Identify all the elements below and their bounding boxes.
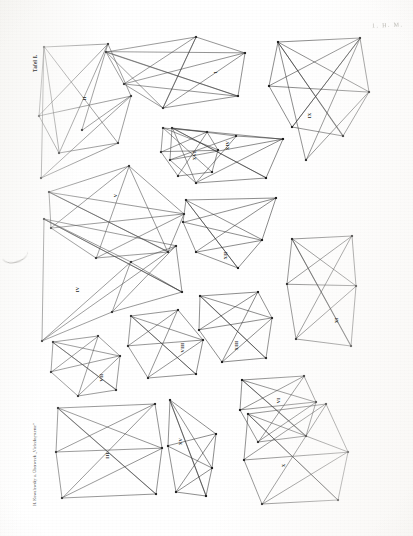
vertex-dot [81, 129, 83, 131]
vertex-dot [305, 159, 307, 161]
figure-chord [51, 166, 129, 228]
vertex-dot [211, 171, 213, 173]
vertex-dot [195, 36, 197, 38]
figure-chord [44, 219, 182, 292]
vertex-dot [43, 218, 45, 220]
vertex-dot [128, 165, 130, 167]
vertex-dot [315, 401, 317, 403]
vertex-dot [40, 177, 42, 179]
figure-chord [170, 400, 206, 496]
figure-chord [186, 200, 262, 240]
figure-chord [240, 402, 316, 410]
figure-chord [196, 240, 262, 252]
figure-chord [296, 236, 352, 339]
vertex-dot [107, 43, 109, 45]
vertex-dot [247, 413, 249, 415]
figure-chord [112, 262, 131, 312]
figure-chord [59, 44, 107, 153]
vertex-dot [355, 285, 357, 287]
vertex-dot [241, 379, 243, 381]
vertex-dot [205, 495, 207, 497]
figure-chord [292, 239, 351, 346]
figure-chord [41, 96, 131, 178]
figure-i [105, 36, 246, 109]
figure-chord [287, 236, 352, 284]
figure-xiv [169, 127, 284, 184]
figure-chord [42, 246, 176, 341]
vertex-dot [115, 389, 117, 391]
figure-chord [53, 342, 120, 356]
figure-chord [183, 222, 262, 240]
vertex-dot [282, 138, 284, 140]
figure-outline [199, 292, 272, 362]
figure-chord [172, 128, 283, 139]
vertex-dot [286, 283, 288, 285]
vertex-dot [351, 235, 353, 237]
figure-chord [82, 96, 131, 130]
figure-xii [182, 197, 277, 269]
vertex-dot [303, 375, 305, 377]
plate-page: Tafel I. H. Kowalewsky u. Überweck „Viel… [0, 0, 413, 536]
vertex-dot [162, 127, 164, 129]
vertex-dot [257, 441, 259, 443]
figure-outline [244, 404, 348, 504]
figure-chord [240, 376, 304, 410]
figure-chord [44, 47, 59, 153]
vertex-dot [130, 261, 132, 263]
vertex-dot [198, 329, 200, 331]
vertex-dot [43, 46, 45, 48]
figure-xv [167, 399, 217, 497]
figure-chord [269, 86, 369, 92]
figure-iv [41, 218, 183, 342]
vertex-dot [199, 295, 201, 297]
vertex-dot [342, 135, 344, 137]
vertex-dot [57, 407, 59, 409]
figure-outline [240, 376, 316, 442]
vertex-dot [337, 499, 339, 501]
vertex-dot [48, 191, 50, 193]
figure-iii [55, 403, 163, 499]
geometric-figures-plate [0, 0, 413, 536]
figure-chord [278, 42, 306, 160]
figure-vi [239, 375, 317, 443]
vertex-dot [50, 371, 52, 373]
vertex-dot [119, 355, 121, 357]
figure-chord [51, 356, 120, 372]
figure-chord [56, 448, 162, 452]
figure-chord [242, 380, 316, 402]
figures-layer [38, 36, 370, 505]
figure-chord [128, 340, 203, 346]
figure-ix [268, 37, 370, 161]
vertex-dot [221, 361, 223, 363]
figure-xiii [198, 291, 273, 363]
vertex-dot [265, 177, 267, 179]
vertex-dot [295, 338, 297, 340]
figure-chord [258, 402, 316, 441]
vertex-dot [217, 149, 219, 151]
vertex-dot [175, 491, 177, 493]
figure-x [243, 403, 349, 505]
vertex-dot [277, 41, 279, 43]
vertex-dot [175, 245, 177, 247]
vertex-dot [195, 182, 197, 184]
vertex-dot [161, 447, 163, 449]
vertex-dot [52, 341, 54, 343]
vertex-dot [167, 445, 169, 447]
vertex-dot [123, 83, 125, 85]
vertex-dot [239, 409, 241, 411]
vertex-dot [215, 433, 217, 435]
vertex-dot [347, 451, 349, 453]
vertex-dot [147, 377, 149, 379]
vertex-dot [291, 238, 293, 240]
figure-chord [124, 53, 245, 84]
vertex-dot [368, 91, 370, 93]
vertex-dot [211, 467, 213, 469]
vertex-dot [117, 142, 119, 144]
vertex-dot [182, 221, 184, 223]
vertex-dot [275, 197, 277, 199]
vertex-dot [162, 107, 164, 109]
figure-vii [50, 335, 121, 397]
vertex-dot [177, 309, 179, 311]
vertex-dot [130, 95, 132, 97]
vertex-dot [181, 291, 183, 293]
